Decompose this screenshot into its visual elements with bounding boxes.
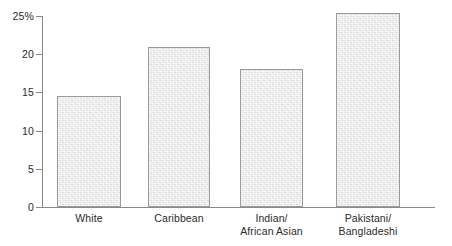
y-axis-tick-label: 15 (22, 86, 34, 98)
y-axis-tick (36, 16, 42, 17)
y-axis-tick-label: 20 (22, 48, 34, 60)
y-axis-tick (36, 169, 42, 170)
y-axis-tick-label: 5 (28, 163, 34, 175)
bar (57, 96, 121, 207)
y-axis-tick (36, 54, 42, 55)
y-axis-line (42, 16, 43, 208)
y-axis-tick-label: 25% (12, 10, 34, 22)
x-axis-line (42, 207, 435, 208)
bar-chart: 0510152025% WhiteCaribbeanIndian/ Africa… (0, 0, 452, 246)
y-axis-tick (36, 92, 42, 93)
bar (336, 13, 400, 207)
x-axis-category-label: Pakistani/ Bangladeshi (308, 212, 428, 238)
y-axis-tick-label: 10 (22, 125, 34, 137)
bar (240, 69, 303, 207)
y-axis-tick (36, 207, 42, 208)
bar (148, 47, 210, 207)
y-axis-tick (36, 131, 42, 132)
